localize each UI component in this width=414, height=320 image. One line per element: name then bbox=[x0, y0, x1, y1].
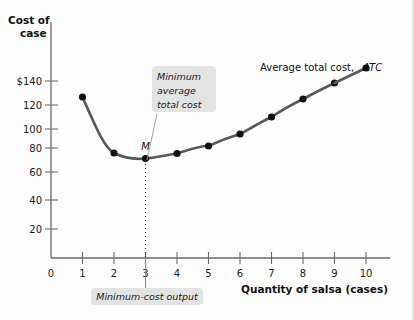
data-point-8 bbox=[299, 95, 306, 102]
callout-minimum-cost-output: Minimum-cost output bbox=[91, 288, 203, 305]
callout-output-label: Minimum-cost output bbox=[96, 291, 199, 302]
x-axis-title: Quantity of salsa (cases) bbox=[241, 283, 388, 295]
y-tick-label-80: 80 bbox=[29, 143, 42, 154]
x-tick-label-0: 0 bbox=[48, 268, 54, 279]
x-tick-label-4: 4 bbox=[174, 268, 180, 279]
series-label-atc: Average total cost, ATC bbox=[260, 62, 382, 73]
cost-curve-chart: Cost of case $140 120 100 80 60 40 20 bbox=[0, 0, 414, 320]
x-tick-label-6: 6 bbox=[237, 268, 243, 279]
x-tick-label-8: 8 bbox=[300, 268, 306, 279]
y-tick-label-60: 60 bbox=[29, 167, 42, 178]
series-label-prefix: Average total cost, bbox=[260, 62, 354, 73]
data-point-1 bbox=[79, 93, 86, 100]
y-tick-label-20: 20 bbox=[29, 224, 42, 235]
callout-leader-line bbox=[147, 114, 157, 160]
data-point-4 bbox=[173, 150, 180, 157]
y-axis-title-line1: Cost of bbox=[8, 14, 50, 26]
x-tick-label-7: 7 bbox=[268, 268, 274, 279]
data-point-2 bbox=[110, 149, 117, 156]
callout-line-2: average bbox=[157, 85, 196, 96]
y-axis-title-line2: case bbox=[20, 27, 47, 39]
callout-line-1: Minimum bbox=[157, 71, 201, 82]
y-tick-label-40: 40 bbox=[29, 195, 42, 206]
callout-line-3: total cost bbox=[157, 99, 203, 110]
x-tick-label-1: 1 bbox=[79, 268, 85, 279]
chart-figure: Cost of case $140 120 100 80 60 40 20 bbox=[0, 0, 414, 320]
x-tick-label-9: 9 bbox=[331, 268, 337, 279]
y-tick-label-120: 120 bbox=[23, 100, 42, 111]
x-tick-label-10: 10 bbox=[360, 268, 373, 279]
series-label-symbol: ATC bbox=[362, 62, 382, 73]
y-tick-label-140: $140 bbox=[17, 76, 42, 87]
data-point-6 bbox=[236, 130, 243, 137]
y-tick-label-100: 100 bbox=[23, 124, 42, 135]
data-point-5 bbox=[205, 142, 212, 149]
x-tick-label-2: 2 bbox=[111, 268, 117, 279]
x-tick-label-5: 5 bbox=[205, 268, 211, 279]
data-point-7 bbox=[268, 113, 275, 120]
